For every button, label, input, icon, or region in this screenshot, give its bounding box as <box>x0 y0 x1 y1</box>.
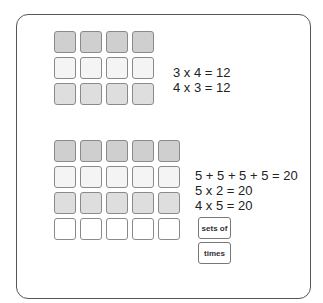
unit-square <box>132 31 154 53</box>
equation-3x4: 3 x 4 = 12 <box>173 65 230 80</box>
unit-square <box>106 218 128 240</box>
unit-square <box>132 218 154 240</box>
unit-square <box>80 218 102 240</box>
unit-square <box>106 140 128 162</box>
unit-square <box>158 140 180 162</box>
unit-square <box>80 31 102 53</box>
unit-square <box>54 218 76 240</box>
unit-square <box>54 31 76 53</box>
unit-square <box>132 57 154 79</box>
unit-square <box>132 140 154 162</box>
unit-square <box>80 83 102 105</box>
unit-square <box>54 140 76 162</box>
unit-square <box>80 166 102 188</box>
unit-square <box>80 57 102 79</box>
word-card-times: times <box>198 242 231 264</box>
unit-square <box>54 57 76 79</box>
unit-square <box>106 192 128 214</box>
unit-square <box>106 57 128 79</box>
unit-square <box>158 166 180 188</box>
unit-square <box>54 166 76 188</box>
unit-square <box>132 192 154 214</box>
unit-square <box>54 192 76 214</box>
unit-square <box>158 218 180 240</box>
unit-square <box>132 166 154 188</box>
unit-square <box>80 140 102 162</box>
equation-4x5: 4 x 5 = 20 <box>195 198 252 213</box>
unit-square <box>158 192 180 214</box>
equation-5x2: 5 x 2 = 20 <box>195 183 252 198</box>
equation-repeated-addition: 5 + 5 + 5 + 5 = 20 <box>195 168 298 183</box>
unit-square <box>106 31 128 53</box>
unit-square <box>106 83 128 105</box>
unit-square <box>80 192 102 214</box>
unit-square <box>106 166 128 188</box>
word-card-sets-of: sets of <box>198 217 231 239</box>
unit-square <box>132 83 154 105</box>
equation-4x3: 4 x 3 = 12 <box>173 80 230 95</box>
unit-square <box>54 83 76 105</box>
